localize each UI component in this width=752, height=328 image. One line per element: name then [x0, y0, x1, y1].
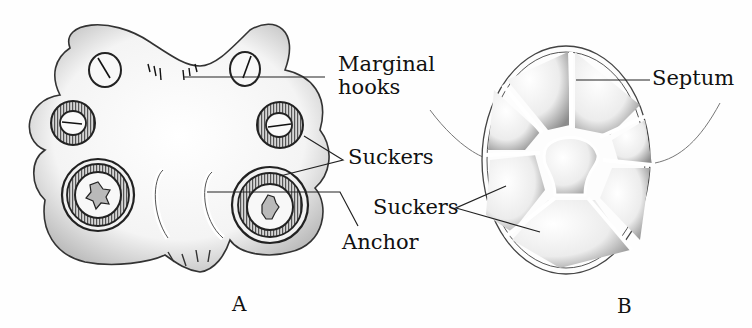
panel-b-body-edge-right: [655, 103, 720, 163]
sucker-a-middle-left: [51, 101, 95, 145]
panel-label-b: B: [617, 294, 632, 318]
label-suckers-a: Suckers: [348, 147, 434, 168]
sucker-a-middle-right: [257, 102, 303, 148]
sucker-a-top-left: [89, 53, 121, 87]
label-anchor: Anchor: [342, 232, 419, 253]
panel-b-body-edge-left: [430, 110, 486, 158]
label-marginal-hooks-line2: hooks: [338, 77, 400, 98]
sucker-a-bottom-left: [62, 159, 134, 231]
label-suckers-b: Suckers: [373, 197, 459, 218]
diagram-figure: Marginal hooks Suckers Anchor Septum Suc…: [0, 0, 752, 328]
panel-label-a: A: [232, 292, 246, 316]
label-septum: Septum: [652, 68, 734, 89]
sucker-a-bottom-right: [232, 167, 308, 243]
sucker-a-top-right: [230, 52, 260, 86]
label-marginal-hooks-line1: Marginal: [338, 54, 435, 75]
